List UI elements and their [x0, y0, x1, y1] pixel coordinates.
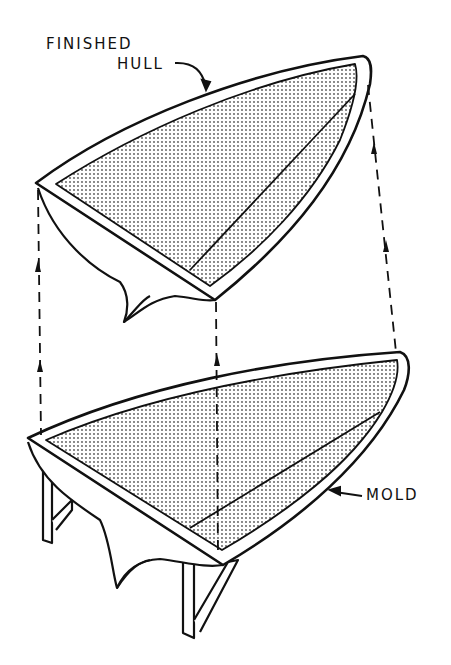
arrow-right-line — [368, 85, 396, 352]
finished-hull-label-line1: FINISHED — [46, 35, 133, 53]
mold-leg-right — [183, 560, 238, 638]
arrow-up-icon — [214, 354, 220, 366]
finished-hull-label-line2: HULL — [117, 55, 164, 73]
mold-interior — [46, 360, 398, 550]
mold-label: MOLD — [366, 486, 419, 504]
finished-hull — [36, 56, 371, 322]
arrow-up-icon — [35, 260, 41, 272]
arrow-up-icon — [37, 360, 43, 372]
finished-hull-leader — [175, 63, 206, 86]
arrow-left-line — [38, 190, 41, 435]
arrow-up-icon — [371, 142, 377, 154]
hull-mold-diagram — [0, 0, 451, 665]
